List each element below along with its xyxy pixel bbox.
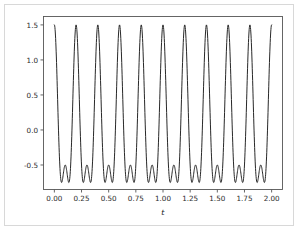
x-tick-label: 2.00 [264, 194, 280, 203]
y-tick-labels: -0.50.00.51.01.5 [24, 21, 38, 170]
x-tick-label: 0.75 [128, 194, 144, 203]
matplotlib-figure: -0.50.00.51.01.5 0.000.250.500.751.001.2… [0, 0, 299, 231]
x-tick-label: 1.50 [209, 194, 225, 203]
y-tick-label: 1.5 [27, 21, 38, 30]
x-tick-label: 0.50 [101, 194, 117, 203]
x-tick-label: 0.00 [46, 194, 62, 203]
x-tick-label: 1.00 [155, 194, 171, 203]
plot-canvas: -0.50.00.51.01.5 0.000.250.500.751.001.2… [0, 0, 299, 231]
x-tick-label: 1.25 [182, 194, 198, 203]
y-tick-label: 1.0 [27, 56, 39, 65]
x-axis-label: t [161, 207, 165, 217]
y-tick-label: -0.5 [24, 161, 38, 170]
y-tick-label: 0.5 [27, 91, 38, 100]
x-tick-label: 0.25 [74, 194, 90, 203]
x-tick-labels: 0.000.250.500.751.001.251.501.752.00 [46, 194, 280, 203]
y-tick-label: 0.0 [27, 126, 39, 135]
x-tick-label: 1.75 [236, 194, 252, 203]
axes-area: -0.50.00.51.01.5 0.000.250.500.751.001.2… [24, 17, 283, 218]
